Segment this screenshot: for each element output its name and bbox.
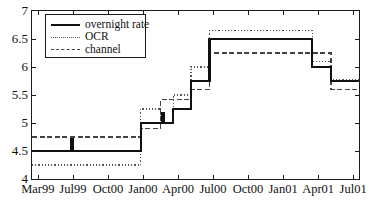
y-axis-tick-mark-right — [355, 95, 359, 96]
y-axis-tick-mark-right — [355, 151, 359, 152]
x-axis-tick-mark — [38, 175, 39, 179]
x-axis-tick-mark-top — [178, 11, 179, 15]
legend-label-overnight-rate: overnight rate — [85, 19, 149, 30]
y-axis-tick-labels: 44.555.566.57 — [0, 0, 28, 212]
x-axis-tick-label: Jul99 — [59, 182, 86, 197]
y-axis-tick-label: 6.5 — [12, 31, 28, 47]
y-axis-tick-mark — [32, 95, 36, 96]
legend-item-channel: channel — [51, 43, 141, 56]
legend-item-overnight-rate: overnight rate — [51, 18, 141, 31]
x-axis-tick-label: Oct00 — [233, 182, 264, 197]
y-axis-tick-label: 6 — [22, 59, 29, 75]
y-axis-tick-mark-right — [355, 67, 359, 68]
legend-label-channel: channel — [85, 44, 121, 55]
y-axis-tick-label: 5 — [22, 115, 29, 131]
x-axis-tick-mark-top — [283, 11, 284, 15]
legend-swatch-dotted-icon — [51, 32, 80, 42]
x-axis-tick-mark — [73, 175, 74, 179]
legend-item-ocr: OCR — [51, 31, 141, 44]
x-axis-tick-mark — [143, 175, 144, 179]
x-axis-tick-label: Jul00 — [199, 182, 226, 197]
x-axis-tick-labels: Mar99Jul99Oct00Jan00Apr00Jul00Oct00Jan01… — [0, 182, 375, 208]
legend-swatch-solid-icon — [51, 19, 80, 29]
y-axis-tick-mark — [32, 151, 36, 152]
y-axis-tick-mark — [32, 39, 36, 40]
x-axis-tick-label: Apr01 — [302, 182, 334, 197]
x-axis-tick-mark-top — [353, 11, 354, 15]
x-axis-tick-mark — [213, 175, 214, 179]
x-axis-tick-label: Mar99 — [21, 182, 54, 197]
y-axis-tick-mark-right — [355, 123, 359, 124]
y-axis-tick-label: 5.5 — [12, 87, 28, 103]
x-axis-tick-mark — [248, 175, 249, 179]
x-axis-tick-mark — [283, 175, 284, 179]
legend-swatch-dashed-icon — [51, 44, 80, 54]
x-axis-tick-label: Oct00 — [93, 182, 124, 197]
x-axis-tick-label: Jan00 — [128, 182, 157, 197]
series-line-channel — [32, 53, 359, 137]
x-axis-tick-mark-top — [38, 11, 39, 15]
x-axis-tick-mark-top — [213, 11, 214, 15]
y-axis-tick-mark — [32, 123, 36, 124]
chart-legend: overnight rate OCR channel — [45, 14, 146, 58]
x-axis-tick-mark — [108, 175, 109, 179]
legend-label-ocr: OCR — [85, 31, 109, 42]
x-axis-tick-label: Jan01 — [268, 182, 297, 197]
x-axis-tick-mark-top — [318, 11, 319, 15]
x-axis-tick-mark — [318, 175, 319, 179]
y-axis-tick-mark — [32, 67, 36, 68]
y-axis-tick-label: 7 — [22, 3, 29, 19]
x-axis-tick-label: Jul01 — [340, 182, 367, 197]
chart-container: 44.555.566.57 overnight rate OCR channel… — [0, 0, 375, 212]
x-axis-tick-mark-top — [248, 11, 249, 15]
y-axis-tick-mark-right — [355, 39, 359, 40]
x-axis-tick-label: Apr00 — [162, 182, 194, 197]
y-axis-tick-label: 4.5 — [12, 143, 28, 159]
x-axis-tick-mark — [353, 175, 354, 179]
x-axis-tick-mark — [178, 175, 179, 179]
